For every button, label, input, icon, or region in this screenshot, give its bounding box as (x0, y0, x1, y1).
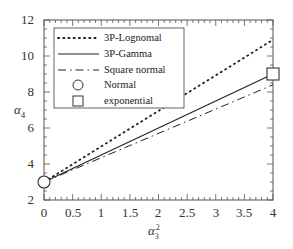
legend-square-icon (73, 96, 83, 106)
marker-exponential (267, 68, 279, 80)
y-tick-label: 2 (12, 193, 34, 206)
y-axis-label-sub: 4 (21, 110, 26, 120)
x-axis-label-sub: 3 (155, 232, 159, 241)
y-tick-label: 8 (12, 85, 34, 98)
legend-label-exponential: exponential (104, 96, 153, 107)
x-axis-label: α32 (148, 224, 160, 241)
y-tick-label: 6 (12, 121, 34, 134)
y-axis-label: α4 (14, 103, 25, 120)
legend-label-square-normal: Square normal (104, 65, 166, 76)
x-tick-label: 2 (143, 206, 173, 219)
x-tick-label: 4 (258, 206, 288, 219)
x-tick-label: 1.5 (115, 206, 145, 219)
y-tick-label: 4 (12, 157, 34, 170)
legend-circle-icon (73, 80, 83, 90)
x-tick-label: 0.5 (58, 206, 88, 219)
x-tick-label: 2.5 (172, 206, 202, 219)
x-tick-label: 3.5 (229, 206, 259, 219)
legend-label-gamma: 3P-Gamma (104, 49, 152, 60)
legend-label-normal: Normal (104, 80, 136, 91)
y-tick-label: 10 (12, 49, 34, 62)
x-tick-label: 1 (86, 206, 116, 219)
y-axis-label-base: α (14, 102, 21, 117)
x-tick-label: 3 (201, 206, 231, 219)
x-tick-label: 0 (29, 206, 59, 219)
marker-normal (38, 176, 50, 188)
legend-label-lognormal: 3P-Lognomal (104, 33, 162, 44)
x-axis-label-sup: 2 (156, 223, 160, 232)
y-tick-label: 12 (12, 13, 34, 26)
x-axis-label-base: α (148, 223, 155, 238)
